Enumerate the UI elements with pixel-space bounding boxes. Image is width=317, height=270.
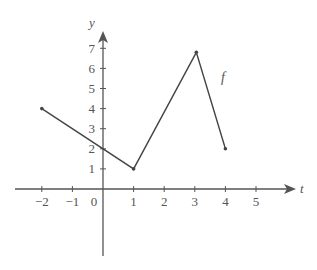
x-tick-label: 2 — [161, 194, 168, 209]
data-point — [224, 147, 228, 151]
data-point — [132, 167, 136, 171]
y-tick-label: 1 — [89, 161, 96, 176]
function-line — [42, 52, 226, 169]
y-tick-label: 3 — [89, 121, 96, 136]
axes — [15, 31, 296, 256]
x-tick-label: −2 — [35, 194, 49, 209]
data-point — [195, 51, 199, 55]
x-tick-label: 5 — [253, 194, 260, 209]
labels: tyf — [87, 15, 304, 196]
x-axis-label: t — [300, 181, 304, 196]
y-tick-label: 6 — [89, 61, 96, 76]
y-tick-label: 7 — [89, 41, 96, 56]
y-tick-label: 5 — [89, 81, 96, 96]
x-tick-label: 3 — [192, 194, 199, 209]
x-tick-label: −1 — [65, 194, 79, 209]
y-tick-label: 4 — [89, 101, 96, 116]
y-axis-label: y — [87, 15, 95, 30]
x-tick-label: 1 — [130, 194, 137, 209]
function-label: f — [221, 70, 227, 85]
x-tick-label: 4 — [222, 194, 229, 209]
origin-label: 0 — [91, 194, 98, 209]
ticks: −2−11234501234567 — [35, 41, 259, 209]
series — [40, 51, 227, 171]
data-point — [40, 107, 44, 111]
function-graph: −2−11234501234567 tyf — [0, 0, 317, 270]
